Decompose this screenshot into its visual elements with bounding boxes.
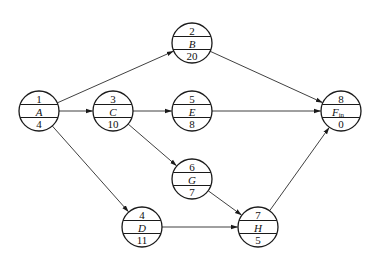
node-h: 7H5 — [238, 207, 278, 247]
node-b: 2B20 — [172, 23, 212, 63]
node-activity: E — [188, 106, 196, 118]
node-d: 4D11 — [122, 207, 162, 247]
node-number: 4 — [139, 209, 145, 221]
node-duration: 5 — [255, 234, 261, 246]
node-number: 8 — [338, 93, 344, 105]
node-number: 6 — [189, 161, 195, 173]
node-number: 3 — [110, 93, 116, 105]
edge-b-to-f — [210, 51, 322, 102]
node-g: 6G7 — [172, 159, 212, 199]
edge-h-to-f — [270, 128, 329, 211]
edges-layer — [52, 51, 329, 227]
node-e: 5E8 — [172, 91, 212, 131]
node-duration: 8 — [189, 118, 195, 130]
node-activity: G — [188, 174, 196, 186]
node-number: 5 — [189, 93, 195, 105]
node-duration: 10 — [108, 118, 120, 130]
edge-a-to-d — [52, 126, 128, 212]
node-number: 2 — [189, 25, 195, 37]
network-diagram: 1A42B203C104D115E86G77H58Fin0 — [0, 0, 375, 262]
node-activity: A — [35, 106, 43, 118]
node-activity: D — [137, 222, 146, 234]
nodes-layer: 1A42B203C104D115E86G77H58Fin0 — [19, 23, 361, 247]
node-a: 1A4 — [19, 91, 59, 131]
node-activity: B — [189, 38, 196, 50]
node-c: 3C10 — [93, 91, 133, 131]
node-duration: 20 — [187, 50, 199, 62]
diagram-svg: 1A42B203C104D115E86G77H58Fin0 — [0, 0, 375, 262]
edge-c-to-g — [128, 124, 176, 166]
node-duration: 0 — [338, 118, 344, 130]
node-activity: H — [253, 222, 263, 234]
node-duration: 7 — [189, 186, 195, 198]
node-duration: 11 — [137, 234, 148, 246]
node-number: 1 — [36, 93, 42, 105]
node-number: 7 — [255, 209, 261, 221]
edge-g-to-h — [208, 191, 241, 215]
node-duration: 4 — [36, 118, 42, 130]
node-activity: C — [109, 106, 117, 118]
node-f: 8Fin0 — [321, 91, 361, 131]
